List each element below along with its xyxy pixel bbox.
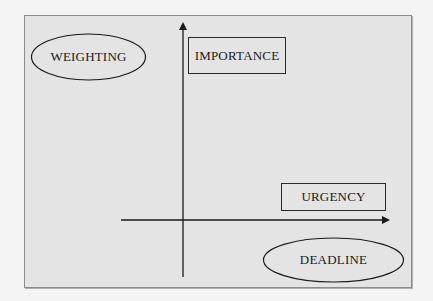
importance-box: IMPORTANCE — [188, 37, 286, 74]
weighting-label: WEIGHTING — [31, 34, 146, 80]
urgency-box: URGENCY — [281, 183, 386, 211]
deadline-label: DEADLINE — [263, 238, 404, 282]
diagram-stage: WEIGHTING DEADLINE IMPORTANCE URGENCY — [0, 0, 433, 301]
